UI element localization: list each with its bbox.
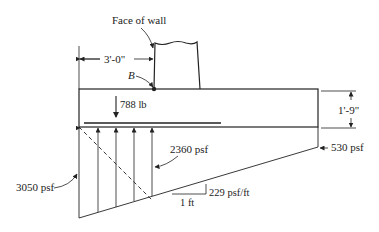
- footing-pressure-diagram: Face of wall 3'-0" B 788 lb 1'-9" 3050 p…: [0, 0, 379, 232]
- load-label: 788 lb: [120, 99, 147, 110]
- slope-run-label: 1 ft: [180, 197, 194, 208]
- heel-length-label: 3'-0": [104, 53, 125, 65]
- wall: [154, 42, 200, 90]
- footing: [79, 89, 318, 127]
- face-of-wall-label: Face of wall: [112, 14, 166, 26]
- face-of-wall-leader: [141, 28, 153, 48]
- pressure-right-label: 530 psf: [331, 141, 364, 153]
- slope-label: 229 psf/ft: [209, 187, 250, 198]
- soil-pressure-diagram: [79, 127, 318, 218]
- pressure-left-label: 3050 psf: [16, 181, 55, 193]
- thickness-label: 1'-9": [338, 104, 359, 116]
- pressure-wall-label: 2360 psf: [170, 143, 209, 155]
- point-b-label: B: [128, 69, 135, 81]
